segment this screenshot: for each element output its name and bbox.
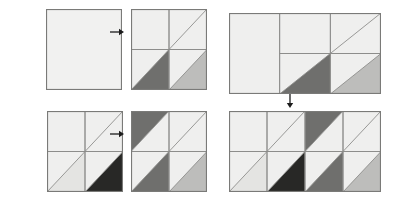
grid-cell [131, 50, 169, 91]
grid-cell [280, 13, 331, 54]
grid-cell [267, 111, 305, 152]
grid-cell [330, 54, 381, 95]
grid-panel-panel-b2 [131, 111, 207, 192]
grid-cell [343, 111, 381, 152]
grid-cell [305, 152, 343, 193]
grid-cell [169, 50, 207, 91]
arrow-right-icon [110, 129, 124, 139]
grid-cell [47, 111, 85, 152]
grid-cell [47, 152, 85, 193]
figure-canvas [0, 0, 404, 204]
grid-cell [169, 111, 207, 152]
grid-cell [131, 152, 169, 193]
grid-cell [343, 152, 381, 193]
arrow-right-icon [110, 27, 124, 37]
grid-cell [131, 111, 169, 152]
grid-panel-panel-c1 [229, 13, 381, 94]
grid-cell [169, 9, 207, 50]
grid-panel-panel-a1 [46, 9, 122, 90]
grid-cell [131, 9, 169, 50]
grid-cell [229, 152, 267, 193]
grid-panel-panel-b1 [47, 111, 123, 192]
grid-cell [229, 13, 280, 94]
grid-panel-panel-c2 [229, 111, 381, 192]
grid-cell [280, 54, 331, 95]
arrow-down-icon [285, 94, 295, 108]
grid-cell [46, 9, 122, 90]
grid-cell [169, 152, 207, 193]
grid-panel-panel-a2 [131, 9, 207, 90]
grid-cell [305, 111, 343, 152]
grid-cell [330, 13, 381, 54]
grid-cell [85, 152, 123, 193]
grid-cell [229, 111, 267, 152]
grid-cell [267, 152, 305, 193]
